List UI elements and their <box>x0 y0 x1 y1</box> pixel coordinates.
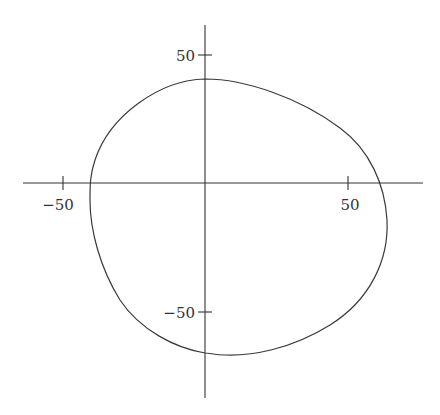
x-tick-label-50: 50 <box>340 196 359 214</box>
y-tick-label-50: 50 <box>176 47 195 65</box>
x-tick-label-neg50: −50 <box>42 196 74 214</box>
closed-curve <box>90 79 387 355</box>
y-tick-label-neg50: −50 <box>163 304 195 322</box>
plot-area: −50 50 50 −50 <box>0 0 440 415</box>
